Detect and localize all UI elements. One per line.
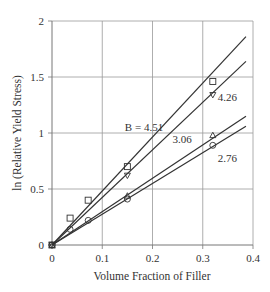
square-marker <box>124 164 130 170</box>
y-tick-label: 2 <box>39 15 45 27</box>
circle-marker <box>210 142 216 148</box>
fit-line <box>52 37 246 245</box>
y-axis-label: ln (Relative Yield Stress) <box>11 75 24 191</box>
y-tick-label: 0.5 <box>30 183 44 195</box>
square-marker <box>210 78 216 84</box>
data-markers <box>49 78 216 248</box>
x-tick-label: 0.1 <box>95 252 109 264</box>
x-tick-label: 0.4 <box>246 252 260 264</box>
x-tick-label: 0 <box>49 252 55 264</box>
y-tick-label: 1.5 <box>30 71 44 83</box>
x-tick-label: 0.3 <box>196 252 210 264</box>
fit-line <box>52 116 246 245</box>
axes <box>48 21 253 249</box>
square-marker <box>85 197 91 203</box>
line-label: 2.76 <box>218 152 238 164</box>
line-label: 3.06 <box>173 133 193 145</box>
chart: 00.10.20.30.400.511.52 B = 4.514.263.062… <box>0 0 270 292</box>
y-tick-label: 1 <box>39 127 45 139</box>
square-marker <box>67 215 73 221</box>
circle-marker <box>67 226 73 232</box>
fit-line <box>52 126 246 245</box>
line-label: B = 4.51 <box>125 121 163 133</box>
circle-marker <box>124 196 130 202</box>
x-axis-label: Volume Fraction of Filler <box>93 270 210 282</box>
x-tick-label: 0.2 <box>146 252 160 264</box>
circle-marker <box>85 217 91 223</box>
tick-labels: 00.10.20.30.400.511.52 <box>30 15 260 264</box>
circle-marker <box>49 242 55 248</box>
line-annotations: B = 4.514.263.062.76 <box>125 91 238 163</box>
line-label: 4.26 <box>218 91 238 103</box>
y-tick-label: 0 <box>39 239 45 251</box>
fit-lines <box>52 37 246 245</box>
